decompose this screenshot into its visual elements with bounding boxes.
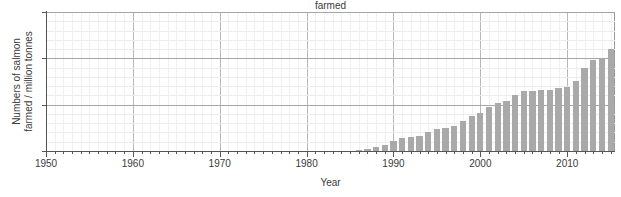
bar xyxy=(390,141,396,151)
x-tick-minor xyxy=(254,151,255,154)
x-tick-minor xyxy=(72,151,73,154)
x-tick-minor xyxy=(185,151,186,154)
bar xyxy=(460,121,466,151)
x-tick-major xyxy=(393,151,394,157)
bar xyxy=(599,58,605,151)
x-tick-minor xyxy=(498,151,499,154)
x-tick-minor xyxy=(107,151,108,154)
bar xyxy=(503,101,509,152)
x-tick-major xyxy=(220,151,221,157)
x-tick-minor xyxy=(272,151,273,154)
x-tick-label: 1960 xyxy=(122,158,144,170)
x-tick-minor xyxy=(81,151,82,154)
x-tick-minor xyxy=(550,151,551,154)
bar xyxy=(581,68,587,151)
x-tick-minor xyxy=(315,151,316,154)
x-tick-minor xyxy=(532,151,533,154)
bar xyxy=(573,81,579,151)
y-axis-title-line2: farmed / million tonnes xyxy=(23,31,35,132)
x-tick-minor xyxy=(593,151,594,154)
bar xyxy=(590,60,596,151)
x-tick-minor xyxy=(367,151,368,154)
x-tick-minor xyxy=(437,151,438,154)
x-axis-line xyxy=(46,151,615,152)
x-tick-minor xyxy=(446,151,447,154)
bar xyxy=(416,136,422,151)
bar-series xyxy=(46,12,615,151)
x-tick-minor xyxy=(324,151,325,154)
x-tick-minor xyxy=(202,151,203,154)
x-tick-minor xyxy=(228,151,229,154)
x-tick-minor xyxy=(168,151,169,154)
x-tick-minor xyxy=(350,151,351,154)
x-tick-label: 1970 xyxy=(209,158,231,170)
bar xyxy=(442,128,448,151)
x-tick-minor xyxy=(298,151,299,154)
x-tick-minor xyxy=(376,151,377,154)
y-axis-title: Numbers of salmon farmed / million tonne… xyxy=(0,12,46,151)
bar xyxy=(608,49,614,151)
bar xyxy=(434,129,440,151)
x-tick-label: 1980 xyxy=(295,158,317,170)
x-tick-minor xyxy=(124,151,125,154)
x-tick-minor xyxy=(194,151,195,154)
y-tick xyxy=(42,151,47,152)
x-tick-minor xyxy=(428,151,429,154)
x-tick-minor xyxy=(89,151,90,154)
x-tick-minor xyxy=(237,151,238,154)
bar xyxy=(512,95,518,151)
bar xyxy=(425,132,431,151)
bar xyxy=(477,113,483,151)
x-tick-minor xyxy=(585,151,586,154)
y-axis-line xyxy=(46,11,47,152)
x-tick-minor xyxy=(515,151,516,154)
x-tick-minor xyxy=(341,151,342,154)
bar xyxy=(399,138,405,151)
bar xyxy=(538,90,544,151)
bar xyxy=(547,90,553,151)
x-tick-minor xyxy=(411,151,412,154)
x-tick-minor xyxy=(420,151,421,154)
x-tick-minor xyxy=(359,151,360,154)
bar xyxy=(408,137,414,151)
x-tick-minor xyxy=(385,151,386,154)
x-tick-minor xyxy=(176,151,177,154)
x-tick-major xyxy=(307,151,308,157)
bar xyxy=(469,116,475,151)
y-axis-title-line1: Numbers of salmon xyxy=(11,31,23,132)
x-tick-minor xyxy=(333,151,334,154)
x-tick-minor xyxy=(576,151,577,154)
bar xyxy=(521,91,527,151)
x-tick-minor xyxy=(63,151,64,154)
bar xyxy=(529,91,535,151)
x-tick-label: 2010 xyxy=(556,158,578,170)
x-tick-minor xyxy=(611,151,612,154)
x-tick-minor xyxy=(541,151,542,154)
x-tick-minor xyxy=(211,151,212,154)
chart-root: farmed 1950196019701980199020002010 0123… xyxy=(0,0,621,197)
x-tick-minor xyxy=(602,151,603,154)
x-tick-major xyxy=(133,151,134,157)
x-tick-minor xyxy=(463,151,464,154)
x-tick-minor xyxy=(472,151,473,154)
bar xyxy=(451,126,457,151)
x-axis-title: Year xyxy=(46,177,615,189)
x-tick-minor xyxy=(281,151,282,154)
x-tick-minor xyxy=(263,151,264,154)
x-tick-minor xyxy=(506,151,507,154)
x-tick-label: 1990 xyxy=(382,158,404,170)
x-tick-minor xyxy=(289,151,290,154)
x-tick-minor xyxy=(142,151,143,154)
x-tick-label: 2000 xyxy=(469,158,491,170)
chart-title: farmed xyxy=(46,0,615,12)
x-tick-minor xyxy=(402,151,403,154)
x-tick-minor xyxy=(159,151,160,154)
x-tick-minor xyxy=(524,151,525,154)
x-tick-minor xyxy=(55,151,56,154)
x-tick-minor xyxy=(454,151,455,154)
bar xyxy=(564,87,570,151)
x-tick-minor xyxy=(150,151,151,154)
x-tick-major xyxy=(480,151,481,157)
bar xyxy=(555,88,561,151)
bar xyxy=(495,103,501,151)
